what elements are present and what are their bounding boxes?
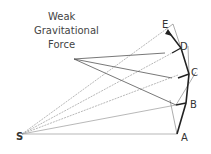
- orbit-diagram: Weak Gravitational Force S A B C D E: [0, 0, 211, 154]
- label-e: E: [162, 19, 168, 30]
- title-line-1: Weak: [48, 11, 76, 22]
- label-a: A: [181, 132, 188, 143]
- title-line-2: Gravitational: [34, 25, 99, 36]
- title-line-3: Force: [48, 39, 75, 50]
- radius-lines: [22, 30, 178, 134]
- force-lines: [74, 53, 176, 105]
- label-b: B: [190, 99, 197, 110]
- label-d: D: [180, 41, 188, 52]
- label-s: S: [16, 131, 23, 142]
- arrow-head-icon: [165, 29, 172, 36]
- label-c: C: [191, 67, 198, 78]
